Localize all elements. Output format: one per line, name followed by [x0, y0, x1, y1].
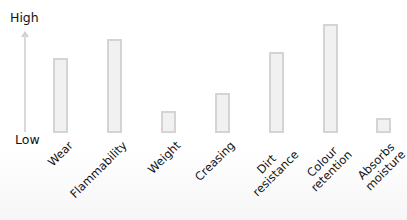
y-axis-line — [24, 35, 26, 132]
bar-creasing — [215, 93, 230, 133]
bar-colour-retention — [323, 24, 338, 133]
bar-flammability — [107, 39, 122, 133]
y-axis-low-label: Low — [15, 132, 40, 147]
bar-weight — [161, 111, 176, 133]
bar-dirt-resistance — [269, 52, 284, 133]
bar-wear — [53, 58, 68, 133]
y-axis-high-label: High — [10, 10, 39, 25]
bar-absorbs-moisture — [376, 118, 391, 133]
bar-chart: High Low WearFlammabilityWeightCreasingD… — [0, 0, 407, 220]
